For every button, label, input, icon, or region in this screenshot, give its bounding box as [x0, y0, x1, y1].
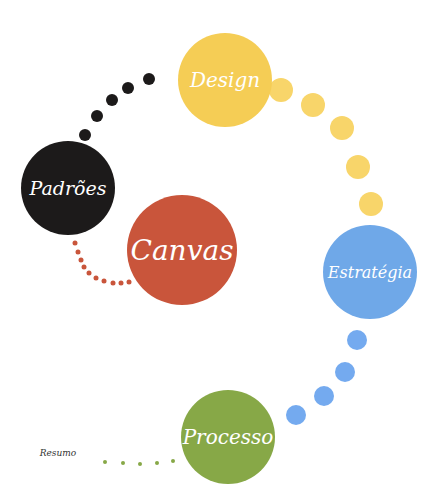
- connector-dot-padroes-canvas: [79, 258, 84, 263]
- connector-dot-padroes-canvas: [87, 271, 92, 276]
- connector-dot-estrategia-processo: [335, 362, 355, 382]
- connector-dot-resumo-processo: [138, 462, 142, 466]
- connector-dot-padroes-design: [79, 129, 91, 141]
- connector-dot-padroes-canvas: [76, 250, 81, 255]
- connector-dot-resumo-processo: [121, 461, 125, 465]
- connector-dot-padroes-design: [122, 82, 134, 94]
- label-processo: Processo: [183, 425, 274, 449]
- connector-dot-padroes-canvas: [119, 281, 124, 286]
- label-estrategia: Estratégia: [328, 263, 412, 282]
- connector-dot-padroes-design: [91, 110, 103, 122]
- label-resumo: Resumo: [40, 448, 76, 458]
- connector-dot-padroes-canvas: [102, 279, 107, 284]
- connector-dot-padroes-canvas: [82, 265, 87, 270]
- connector-dot-padroes-design: [106, 94, 118, 106]
- label-canvas: Canvas: [130, 234, 233, 267]
- connector-dot-design-estrategia: [330, 116, 354, 140]
- connector-dot-padroes-canvas: [94, 276, 99, 281]
- connector-dot-design-estrategia: [269, 78, 293, 102]
- connector-dot-estrategia-processo: [286, 405, 306, 425]
- label-design: Design: [190, 68, 260, 92]
- connector-dot-resumo-processo: [155, 461, 159, 465]
- connector-dot-padroes-design: [143, 73, 155, 85]
- connector-dot-padroes-canvas: [73, 241, 78, 246]
- connector-dot-design-estrategia: [346, 155, 370, 179]
- connector-dot-resumo-processo: [103, 460, 107, 464]
- connector-dot-estrategia-processo: [347, 330, 367, 350]
- connector-dot-resumo-processo: [171, 459, 175, 463]
- connector-dot-estrategia-processo: [314, 386, 334, 406]
- connector-dot-design-estrategia: [301, 93, 325, 117]
- connector-dot-padroes-canvas: [127, 280, 132, 285]
- connector-dot-design-estrategia: [359, 192, 383, 216]
- connector-dot-padroes-canvas: [111, 281, 116, 286]
- label-padroes: Padrões: [30, 177, 107, 199]
